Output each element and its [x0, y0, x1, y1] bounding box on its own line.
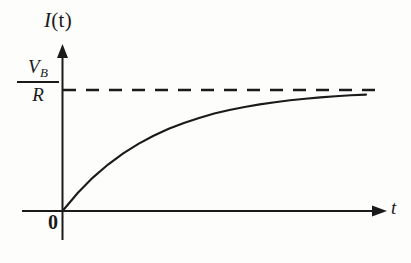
figure-container: I(t) t 0 VB R	[0, 0, 411, 263]
asymptote-numerator: VB	[17, 57, 59, 80]
asymptote-denominator: R	[17, 84, 59, 106]
current-curve	[63, 95, 367, 211]
y-axis-label: I(t)	[44, 10, 72, 31]
origin-label: 0	[48, 212, 58, 232]
x-axis-arrowhead-icon	[372, 206, 387, 217]
x-axis-label: t	[391, 198, 396, 217]
asymptote-numerator-symbol: V	[28, 56, 40, 77]
x-axis	[22, 206, 387, 217]
fraction-bar	[17, 81, 59, 83]
asymptote-numerator-subscript: B	[40, 65, 48, 80]
asymptote-value-label: VB R	[17, 57, 59, 106]
y-axis-arrowhead-icon	[57, 44, 68, 58]
y-axis-label-argument: (t)	[51, 8, 72, 32]
plot-canvas	[0, 0, 411, 263]
